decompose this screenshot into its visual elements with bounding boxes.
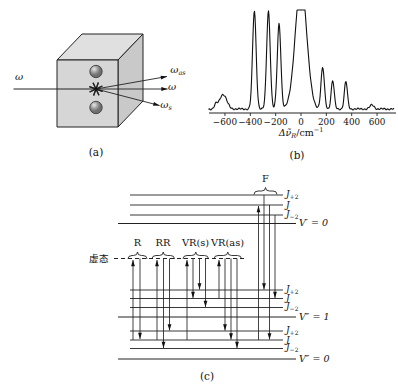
transition-arrowhead — [229, 333, 233, 339]
scatter-point — [94, 87, 97, 90]
scattered-beam-arrowhead-1 — [161, 87, 167, 91]
transition-arrowhead — [273, 292, 277, 298]
scattered-omega-stokes-label: ωs — [160, 100, 172, 112]
transition-arrowhead — [235, 342, 239, 348]
transition-arrowhead — [162, 342, 166, 348]
level-label: J−2 — [286, 302, 298, 312]
group-brace — [254, 188, 277, 195]
level-label: J−2 — [286, 343, 298, 353]
incident-omega-label: ω — [15, 72, 23, 84]
x-axis-label: Δν̃R/cm−1 — [279, 127, 324, 140]
transition-arrowhead — [155, 260, 159, 266]
caption-c: (c) — [200, 371, 214, 382]
cube-front-face — [57, 60, 118, 127]
group-brace — [152, 252, 175, 259]
transition-arrowhead — [138, 333, 142, 339]
caption-b: (b) — [290, 150, 305, 161]
x-tick-label: 200 — [318, 117, 335, 126]
x-tick-label: 0 — [298, 117, 304, 126]
level-label: J−2 — [286, 210, 298, 220]
x-tick-label: 600 — [369, 117, 386, 126]
transition-arrowhead — [217, 260, 221, 266]
scattered-omega-label: ω — [168, 82, 176, 94]
transition-arrowhead — [262, 283, 266, 289]
transition-arrowhead — [268, 333, 272, 339]
transition-arrowhead — [168, 324, 172, 330]
x-tick-label: 400 — [343, 117, 360, 126]
raman-scattering-figure: ω ωas ω ωs (a) (b) (c) Δν̃R/cm−1 −600−40… — [0, 0, 398, 389]
transition-arrowhead — [131, 260, 135, 266]
scattered-omega-antistokes-label: ωas — [170, 65, 185, 77]
transition-arrowhead — [198, 283, 202, 289]
group-brace — [214, 252, 242, 259]
transition-arrowhead — [191, 292, 195, 298]
level-label: J+2 — [286, 190, 298, 200]
transition-group-label-rr: RR — [156, 238, 171, 248]
transition-group-label-f: F — [262, 174, 269, 184]
spectrum-curve — [209, 10, 394, 110]
x-tick-label: −400 — [238, 117, 262, 126]
molecule-atom-top — [90, 65, 102, 77]
transition-arrowhead — [223, 324, 227, 330]
transition-arrowhead — [204, 301, 208, 307]
transition-group-label-vrs: VR(s) — [182, 238, 209, 248]
level-label: V″ = 1 — [299, 312, 329, 322]
figure-canvas — [0, 0, 398, 389]
level-label: V″ = 0 — [299, 354, 329, 364]
transition-group-label-vras: VR(as) — [211, 238, 244, 248]
transition-arrowhead — [257, 206, 261, 212]
level-label: V′ = 0 — [299, 218, 328, 228]
group-brace — [183, 252, 209, 259]
virtual-state-label: 虚态 — [89, 254, 109, 264]
x-tick-label: −200 — [264, 117, 288, 126]
molecule-atom-bottom — [90, 101, 102, 113]
scattered-beam-arrowhead-2 — [153, 102, 159, 106]
x-tick-label: −600 — [213, 117, 237, 126]
group-brace — [128, 252, 147, 259]
caption-a: (a) — [89, 147, 103, 158]
transition-group-label-r: R — [134, 238, 141, 248]
transition-arrowhead — [185, 260, 189, 266]
